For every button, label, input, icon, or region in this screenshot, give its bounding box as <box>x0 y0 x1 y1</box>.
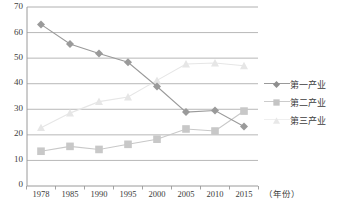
gridlines <box>27 7 258 160</box>
data-point <box>37 147 45 155</box>
chart-legend: 第一产业 第二产业 第三产业 <box>264 76 338 130</box>
data-point <box>66 143 74 151</box>
y-tick-label: 70 <box>3 2 23 11</box>
legend-item-series3[interactable]: 第三产业 <box>264 112 338 128</box>
data-point <box>240 122 248 130</box>
legend-item-series2[interactable]: 第二产业 <box>264 94 338 110</box>
data-point <box>37 124 45 131</box>
y-tick-label: 0 <box>3 180 23 189</box>
data-point <box>211 127 219 135</box>
data-point <box>37 20 45 28</box>
data-point <box>66 40 74 48</box>
data-point <box>240 107 248 115</box>
x-axis-unit-label: （年份） <box>264 190 300 199</box>
series-3 <box>37 59 248 131</box>
data-point <box>182 125 190 133</box>
y-tick-label: 20 <box>3 129 23 138</box>
legend-item-series1[interactable]: 第一产业 <box>264 76 338 92</box>
y-tick-label: 40 <box>3 78 23 87</box>
legend-label: 第一产业 <box>290 78 326 91</box>
chart-container: 70 60 50 40 30 20 10 0 1978 1985 1990 19… <box>0 0 339 210</box>
y-tick-label: 10 <box>3 155 23 164</box>
x-tick-label: 2015 <box>227 190 261 199</box>
y-tick-label: 60 <box>3 28 23 37</box>
data-point <box>153 135 161 143</box>
data-point <box>124 141 132 149</box>
legend-label: 第三产业 <box>290 114 326 127</box>
legend-marker-triangle-icon <box>264 113 290 127</box>
data-point <box>95 50 103 58</box>
data-point <box>66 109 74 116</box>
data-point <box>95 146 103 154</box>
legend-marker-square-icon <box>264 95 290 109</box>
legend-marker-diamond-icon <box>264 77 290 91</box>
data-point <box>124 93 132 100</box>
axis-lines <box>27 7 258 186</box>
y-tick-label: 50 <box>3 53 23 62</box>
y-tick-label: 30 <box>3 104 23 113</box>
data-point <box>211 107 219 115</box>
legend-label: 第二产业 <box>290 96 326 109</box>
